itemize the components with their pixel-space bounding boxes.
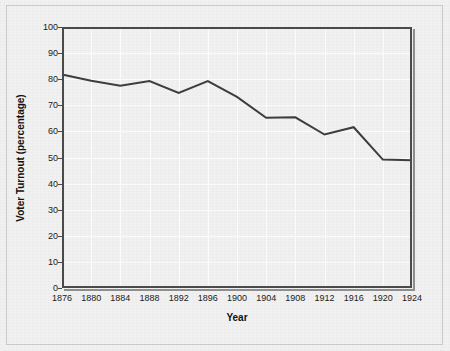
y-axis-tick-label: 90 <box>48 49 58 58</box>
series-polyline <box>62 75 412 161</box>
x-axis-title: Year <box>62 312 412 323</box>
line-series-voter-turnout <box>62 27 412 288</box>
x-axis-tick-label: 1924 <box>402 294 422 303</box>
plot-area <box>62 27 412 288</box>
x-axis-tick-label: 1876 <box>52 294 72 303</box>
y-axis-tick-label: 40 <box>48 179 58 188</box>
y-axis-tick-label: 20 <box>48 231 58 240</box>
x-axis-tick-label: 1880 <box>81 294 101 303</box>
y-axis-tick-mark <box>58 288 62 289</box>
x-axis-tick-label: 1896 <box>198 294 218 303</box>
y-axis-tick-label: 30 <box>48 205 58 214</box>
y-axis-tick-label: 50 <box>48 153 58 162</box>
y-axis-tick-label: 80 <box>48 75 58 84</box>
y-axis-title: Voter Turnout (percentage) <box>12 27 28 288</box>
x-axis-tick-labels: 1876188018841888189218961900190419081912… <box>62 294 412 308</box>
x-axis-tick-label: 1888 <box>139 294 159 303</box>
x-axis-tick-label: 1920 <box>373 294 393 303</box>
x-axis-tick-label: 1908 <box>285 294 305 303</box>
x-axis-tick-label: 1892 <box>169 294 189 303</box>
y-axis-tick-labels: 0102030405060708090100 <box>28 27 58 288</box>
x-axis-tick-label: 1916 <box>344 294 364 303</box>
x-axis-tick-label: 1912 <box>314 294 334 303</box>
y-axis-tick-label: 10 <box>48 257 58 266</box>
x-axis-tick-label: 1884 <box>110 294 130 303</box>
chart-figure: Voter Turnout (percentage) 0102030405060… <box>0 0 450 351</box>
x-axis-tick-label: 1900 <box>227 294 247 303</box>
y-axis-tick-label: 100 <box>43 23 58 32</box>
y-axis-tick-label: 60 <box>48 127 58 136</box>
y-axis-tick-label: 70 <box>48 101 58 110</box>
y-axis-title-text: Voter Turnout (percentage) <box>15 94 26 221</box>
x-axis-tick-label: 1904 <box>256 294 276 303</box>
